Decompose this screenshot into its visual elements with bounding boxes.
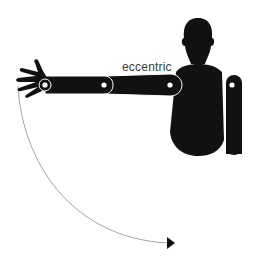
shoulder-joint [167,82,172,87]
eccentric-arm-diagram [0,0,254,260]
other-shoulder-joint [229,82,234,87]
diagram-canvas: eccentric [0,0,254,260]
motion-arc [18,86,168,243]
eccentric-label: eccentric [122,60,172,74]
arm-silhouette [45,74,182,96]
elbow-joint [101,82,106,87]
arrowhead-icon [167,237,175,249]
